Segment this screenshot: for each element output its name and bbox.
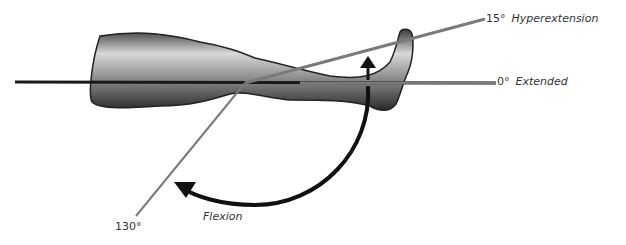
flexion-label: Flexion [203, 210, 242, 223]
flexion-arrow [182, 86, 368, 205]
extended-label: 0°Extended [497, 75, 568, 88]
hyperextension-label: 15°Hyperextension [486, 12, 598, 25]
hyperextension-line [245, 19, 485, 83]
leg-illustration [90, 29, 413, 110]
flexion-angle-label: 130° [115, 220, 142, 233]
hyperextension-arrow-head-icon [360, 56, 376, 68]
knee-rom-diagram [0, 0, 626, 245]
